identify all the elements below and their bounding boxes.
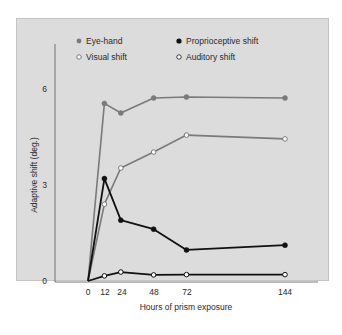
legend-eye-hand-marker [77, 39, 82, 44]
data-point [151, 95, 156, 100]
data-point [119, 270, 124, 275]
data-point [151, 150, 156, 155]
x-tick-0: 0 [86, 287, 91, 297]
data-point [102, 274, 107, 279]
data-point [184, 272, 189, 277]
x-tick-144: 144 [278, 287, 292, 297]
legend-proprioceptive-marker [176, 38, 181, 43]
y-axis-title: Adaptive shift (deg.) [29, 137, 39, 213]
x-tick-12: 12 [100, 287, 110, 297]
x-axis-title: Hours of prism exposure [140, 302, 233, 312]
data-point [184, 133, 189, 138]
series-line-proprioceptive-shift [88, 179, 285, 281]
data-point [184, 247, 189, 252]
data-point [102, 202, 107, 207]
legend-eye-hand: Eye-hand [86, 36, 123, 46]
series-line-eye-hand [88, 97, 285, 281]
data-point [282, 243, 287, 248]
line-chart: 0 3 6 0 12 24 48 72 144 Hours of prism e… [0, 0, 342, 335]
legend-proprioceptive: Proprioceptive shift [186, 36, 259, 46]
data-point [282, 95, 287, 100]
data-point [102, 176, 107, 181]
legend-auditory-marker [177, 55, 181, 59]
legend-visual-marker [77, 55, 81, 59]
data-point [119, 166, 124, 171]
data-point [102, 101, 107, 106]
data-point [184, 95, 189, 100]
y-tick-3: 3 [42, 180, 47, 190]
data-point [118, 111, 123, 116]
x-tick-48: 48 [149, 287, 159, 297]
x-tick-72: 72 [182, 287, 192, 297]
data-point [118, 218, 123, 223]
data-point [283, 272, 288, 277]
data-point [283, 137, 288, 142]
series-layer [88, 95, 287, 282]
y-tick-0: 0 [42, 276, 47, 286]
data-point [151, 273, 156, 278]
y-tick-6: 6 [42, 84, 47, 94]
data-point [151, 227, 156, 232]
legend-visual: Visual shift [86, 52, 128, 62]
x-tick-24: 24 [117, 287, 127, 297]
series-line-visual-shift [88, 135, 285, 281]
legend-auditory: Auditory shift [186, 52, 236, 62]
